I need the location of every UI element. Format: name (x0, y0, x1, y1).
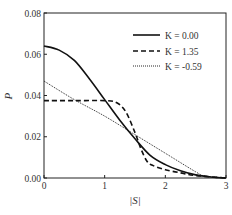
x-tick-label: 3 (224, 181, 229, 191)
series-line-dotted (44, 81, 226, 178)
x-tick-label: 2 (163, 181, 168, 191)
x-tick-label: 0 (42, 181, 47, 191)
plot-frame (44, 13, 226, 178)
x-tick-label: 1 (102, 181, 107, 191)
y-tick-label: 0.00 (24, 174, 41, 184)
line-chart: 0.000.020.040.060.08 0123 P |S| K = 0.00… (0, 0, 232, 215)
y-axis-label: P (2, 92, 14, 100)
y-tick-label: 0.08 (24, 9, 41, 19)
y-tick-label: 0.02 (24, 132, 41, 142)
legend-label-k059: K = -0.59 (165, 62, 202, 72)
x-axis-ticks: 0123 (42, 175, 229, 191)
y-tick-label: 0.04 (24, 91, 41, 101)
legend: K = 0.00 K = 1.35 K = -0.59 (133, 31, 202, 72)
legend-label-k0: K = 0.00 (165, 31, 199, 41)
legend-label-k135: K = 1.35 (165, 47, 199, 57)
x-axis-label: |S| (129, 194, 141, 206)
y-tick-label: 0.06 (24, 50, 41, 60)
